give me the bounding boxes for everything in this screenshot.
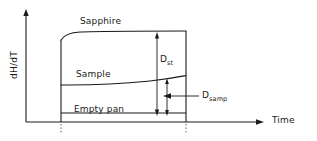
dst-measure-arrow <box>155 32 159 116</box>
sapphire-curve <box>61 31 186 40</box>
dsc-diagram-canvas <box>0 0 317 141</box>
empty-pan-curve-label: Empty pan <box>74 104 124 114</box>
dst-subscript-text: st <box>167 59 173 67</box>
heat-flow-axis <box>23 9 28 122</box>
dst-measure-label: Dst <box>160 54 173 67</box>
y-axis-arrowhead <box>23 9 28 16</box>
x-axis-arrowhead <box>256 119 264 124</box>
dsamp-subscript-text: samp <box>209 95 227 103</box>
sapphire-curve-label: Sapphire <box>80 16 121 26</box>
time-axis <box>26 119 264 124</box>
y-axis-label: dH/dT <box>9 44 19 86</box>
dsc-schematic-figure: dH/dT Time Sapphire Sample Empty pan Dst… <box>0 0 317 141</box>
x-axis-label: Time <box>272 115 295 125</box>
sample-curve-label: Sample <box>76 69 111 79</box>
dsamp-measure-label: Dsamp <box>202 90 227 103</box>
dsamp-leader-arrow <box>163 93 199 98</box>
y-axis-label-wrapper: dH/dT <box>6 48 22 88</box>
